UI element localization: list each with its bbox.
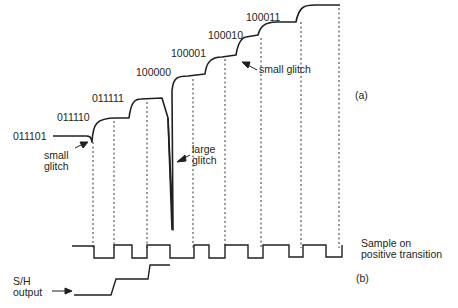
code-label-100011: 100011	[246, 11, 280, 23]
sample-guide-lines	[93, 8, 339, 248]
code-label-100010: 100010	[208, 29, 243, 41]
code-label-011101: 011101	[13, 130, 46, 142]
arrow-head-icon	[65, 288, 72, 294]
sample-clock-waveform	[72, 245, 342, 258]
code-label-011111: 011111	[92, 92, 124, 104]
arrow-head-icon	[242, 62, 250, 68]
sh-label-line2: output	[13, 286, 42, 298]
small-glitch-right-label: small glitch	[259, 63, 311, 75]
clock-label-line2: positive transition	[361, 248, 442, 260]
sh-output-waveform	[74, 265, 170, 295]
large-glitch-label-line2: glitch	[192, 154, 217, 166]
dac-output-waveform	[53, 5, 340, 230]
arrow-head-icon	[177, 155, 186, 162]
panel-label-a: (a)	[355, 89, 368, 101]
code-label-100001: 100001	[171, 47, 206, 59]
small-glitch-left-label-line2: glitch	[44, 160, 69, 172]
arrows	[52, 62, 257, 294]
panel-label-b: (b)	[356, 272, 369, 284]
arrow-head-icon	[80, 142, 88, 148]
glitch-diagram	[0, 0, 458, 308]
code-label-100000: 100000	[136, 66, 171, 78]
code-label-011110: 011110	[57, 111, 90, 123]
